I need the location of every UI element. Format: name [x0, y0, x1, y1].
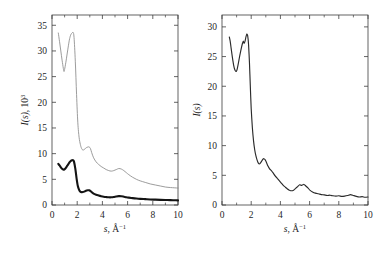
y-tick-label: 0 [212, 200, 217, 210]
right-x-tick-labels: 0246810 [220, 210, 373, 220]
left-x-axis-ticks [52, 15, 178, 205]
y-tick-label: 5 [212, 171, 217, 181]
left-panel-svg: 0246810 05101520253035 s, Å−1 I(s), 103 [0, 0, 190, 255]
left-y-axis-label: I(s), 103 [19, 94, 32, 126]
right-y-axis-label: I(s) [192, 103, 203, 117]
x-tick-label: 8 [150, 210, 155, 220]
y-tick-label: 20 [208, 82, 218, 92]
y-tick-label: 25 [208, 52, 218, 62]
left-upper-thin-curve [58, 32, 178, 188]
y-tick-label: 20 [38, 98, 48, 108]
y-tick-label: 25 [38, 72, 48, 82]
x-tick-label: 6 [125, 210, 130, 220]
chart-panel-right: 0246810 051015202530 s, Å−1 I(s) [190, 0, 379, 255]
y-tick-label: 15 [38, 123, 48, 133]
x-tick-label: 4 [278, 210, 283, 220]
x-tick-label: 2 [249, 210, 254, 220]
left-plot-frame [52, 15, 178, 205]
x-tick-label: 8 [336, 210, 341, 220]
right-experimental-curve [229, 34, 368, 197]
right-y-tick-labels: 051015202530 [208, 22, 218, 210]
left-y-axis-ticks [52, 25, 178, 205]
left-lower-thick-curve [58, 160, 178, 200]
y-tick-label: 5 [42, 175, 47, 185]
x-tick-label: 10 [363, 210, 373, 220]
x-tick-label: 0 [50, 210, 55, 220]
left-y-tick-labels: 05101520253035 [38, 21, 48, 211]
y-tick-label: 10 [38, 149, 48, 159]
right-x-axis-label: s, Å−1 [284, 223, 306, 235]
y-tick-label: 10 [208, 141, 218, 151]
x-tick-label: 2 [75, 210, 80, 220]
x-tick-label: 6 [307, 210, 312, 220]
y-tick-label: 35 [38, 21, 48, 31]
left-x-axis-label: s, Å−1 [104, 223, 126, 235]
right-y-axis-ticks [222, 27, 368, 205]
left-x-tick-labels: 0246810 [50, 210, 183, 220]
y-tick-label: 30 [38, 46, 48, 56]
y-tick-label: 0 [42, 200, 47, 210]
figure-container: 0246810 05101520253035 s, Å−1 I(s), 103 … [0, 0, 379, 255]
x-tick-label: 10 [173, 210, 183, 220]
x-tick-label: 4 [100, 210, 105, 220]
chart-panel-left: 0246810 05101520253035 s, Å−1 I(s), 103 [0, 0, 190, 255]
right-panel-svg: 0246810 051015202530 s, Å−1 I(s) [190, 0, 379, 255]
y-tick-label: 30 [208, 22, 218, 32]
x-tick-label: 0 [220, 210, 225, 220]
y-tick-label: 15 [208, 111, 218, 121]
